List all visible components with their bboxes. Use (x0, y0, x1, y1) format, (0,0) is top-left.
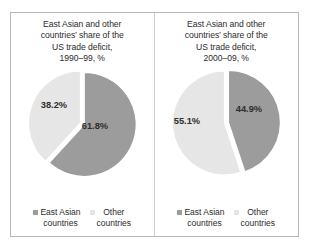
panel-title-line: 2000–09, % (160, 53, 292, 64)
legend-label-line: countries (187, 218, 222, 228)
legend-label: Other countries (97, 207, 132, 228)
square-marker-icon (177, 210, 182, 215)
panel-title-line: East Asian and other (16, 19, 148, 30)
pie-data-label-other: 38.2% (41, 100, 67, 110)
panel-title: East Asian and other countries’ share of… (16, 19, 148, 64)
legend-label: East Asian countries (184, 207, 224, 228)
legend-label-line: Other (103, 207, 124, 217)
legend-item-east-asian[interactable]: East Asian countries (33, 207, 80, 228)
square-marker-icon (234, 210, 239, 215)
panel-title-line: US trade deficit, (160, 42, 292, 53)
panel-title-line: US trade deficit, (16, 42, 148, 53)
pie-chart-1990-99: 38.2% 61.8% (20, 66, 145, 176)
legend-item-east-asian[interactable]: East Asian countries (177, 207, 224, 228)
pie-data-label-east-asian: 61.8% (82, 121, 108, 131)
pie-panel-1990-99: East Asian and other countries’ share of… (11, 13, 155, 236)
legend-label: Other countries (241, 207, 276, 228)
pie-panel-2000-09: East Asian and other countries’ share of… (155, 13, 299, 236)
panel-title-line: 1990–99, % (16, 53, 148, 64)
panel-title-line: countries’ share of the (160, 30, 292, 41)
panel-title-line: countries’ share of the (16, 30, 148, 41)
pie-chart-2000-09: 55.1% 44.9% (164, 66, 289, 176)
legend-label-line: countries (43, 218, 78, 228)
legend-label-line: Other (247, 207, 268, 217)
square-marker-icon (90, 210, 95, 215)
panel-title-line: East Asian and other (160, 19, 292, 30)
legend-item-other[interactable]: Other countries (90, 207, 132, 228)
pie-data-label-other: 55.1% (174, 116, 200, 126)
chart-figure: East Asian and other countries’ share of… (10, 12, 299, 237)
legend-label-line: countries (97, 218, 132, 228)
pie-data-label-east-asian: 44.9% (236, 104, 262, 114)
legend-label-line: East Asian (184, 207, 224, 217)
legend-label-line: countries (241, 218, 276, 228)
legend-label-line: East Asian (40, 207, 80, 217)
legend: East Asian countries Other countries (155, 207, 299, 228)
legend-label: East Asian countries (40, 207, 80, 228)
legend: East Asian countries Other countries (11, 207, 154, 228)
panel-title: East Asian and other countries’ share of… (160, 19, 292, 64)
legend-item-other[interactable]: Other countries (234, 207, 276, 228)
square-marker-icon (33, 210, 38, 215)
